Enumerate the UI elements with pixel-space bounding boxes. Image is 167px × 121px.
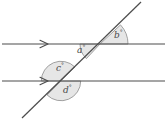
angle-label-b-degree: ° (120, 28, 123, 35)
transversal-line (22, 2, 141, 118)
angle-label-d-degree: ° (69, 83, 72, 90)
geometry-diagram-svg (0, 0, 167, 121)
angle-label-a-degree: ° (82, 43, 85, 50)
angle-label-b: b° (114, 29, 123, 40)
geometry-figure: a° b° c° d° (0, 0, 167, 121)
figure-lines (2, 2, 165, 118)
angle-label-c-degree: ° (61, 61, 64, 68)
angle-label-a: a° (77, 44, 85, 55)
angle-label-d: d° (63, 84, 72, 95)
angle-label-c: c° (56, 62, 64, 73)
